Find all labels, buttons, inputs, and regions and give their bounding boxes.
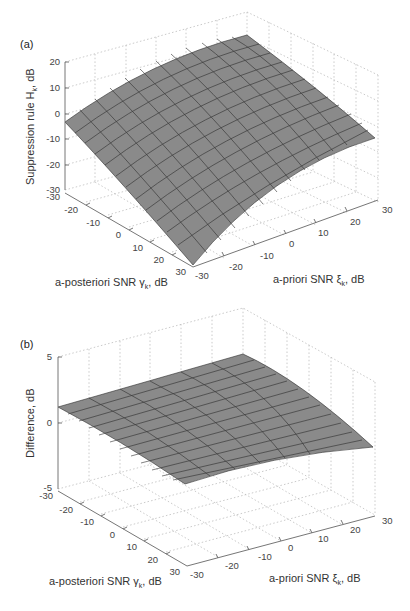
svg-text:20: 20 [153,254,164,265]
svg-text:0: 0 [288,542,293,553]
svg-text:10: 10 [49,82,60,93]
svg-text:-30: -30 [39,490,53,501]
svg-text:0: 0 [110,529,115,540]
svg-text:30: 30 [382,515,393,526]
panel-b-x-tick-labels: -30 -20 -10 0 10 20 30 [190,515,393,580]
panel-b-z-axis-label: Difference, dB [24,388,36,458]
panel-a-y-axis-label: a-posteriori SNR γk, dB [55,276,168,290]
svg-text:0: 0 [116,229,121,240]
svg-text:-30: -30 [190,569,204,580]
panel-b-label: (b) [20,338,33,350]
svg-text:-20: -20 [229,261,243,272]
svg-text:-20: -20 [59,504,73,515]
panel-a-z-axis-label: Suppression rule Hk, dB [24,68,38,185]
svg-text:20: 20 [350,216,361,227]
svg-text:-10: -10 [46,133,60,144]
svg-text:-20: -20 [225,560,239,571]
panel-a-label: (a) [20,38,33,50]
svg-text:-10: -10 [86,217,100,228]
svg-text:30: 30 [382,204,393,215]
figure: (a) [0,0,410,611]
panel-a-x-axis-label: a-priori SNR ξk, dB [273,273,365,287]
svg-text:0: 0 [289,238,294,249]
svg-text:30: 30 [175,266,186,277]
svg-text:10: 10 [318,227,329,238]
svg-text:-10: -10 [260,250,274,261]
panel-b-y-axis-label: a-posteriori SNR γk, dB [49,575,162,589]
svg-text:30: 30 [169,566,180,577]
svg-text:-10: -10 [80,516,94,527]
svg-text:0: 0 [47,417,52,428]
panel-b: (b) [20,308,393,589]
svg-text:-20: -20 [64,204,78,215]
svg-text:10: 10 [126,541,137,552]
panel-b-z-tick-labels: 5 0 -5 [44,351,52,493]
svg-text:-10: -10 [258,551,272,562]
svg-text:5: 5 [47,351,52,362]
svg-text:20: 20 [49,56,60,67]
svg-text:20: 20 [147,554,158,565]
svg-text:-20: -20 [46,159,60,170]
svg-text:10: 10 [318,533,329,544]
panel-a-z-tick-labels: 20 10 0 -10 -20 -30 [46,56,60,195]
panel-b-y-tick-labels: -30 -20 -10 0 10 20 30 [39,490,180,577]
panel-b-x-axis-label: a-priori SNR ξk, dB [269,572,361,586]
svg-text:20: 20 [350,524,361,535]
svg-text:10: 10 [132,242,143,253]
panel-b-surface [58,354,373,484]
svg-text:-30: -30 [46,191,60,202]
svg-text:0: 0 [55,108,60,119]
svg-text:-30: -30 [195,270,209,281]
panel-a: (a) [20,12,393,290]
